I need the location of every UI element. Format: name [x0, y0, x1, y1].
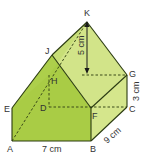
vertex-label-e: E: [4, 104, 10, 114]
vertex-label-d: D: [40, 103, 47, 113]
vertex-label-c: C: [129, 104, 136, 114]
vertex-label-h: H: [51, 76, 58, 86]
vertex-label-k: K: [84, 8, 90, 18]
dimension-cg: 3 cm: [131, 81, 141, 101]
dimension-height: 5 cm: [76, 35, 86, 55]
vertex-label-b: B: [90, 144, 96, 154]
vertex-label-j: J: [45, 46, 50, 56]
vertex-label-f: F: [92, 111, 98, 121]
front-face: [12, 108, 91, 141]
vertex-label-g: G: [129, 69, 136, 79]
vertex-label-a: A: [7, 144, 13, 154]
house-prism-diagram: K J H E D F G C A B 7 cm 9 cm 3 cm 5 cm: [0, 0, 149, 159]
dimension-ab: 7 cm: [42, 144, 62, 154]
